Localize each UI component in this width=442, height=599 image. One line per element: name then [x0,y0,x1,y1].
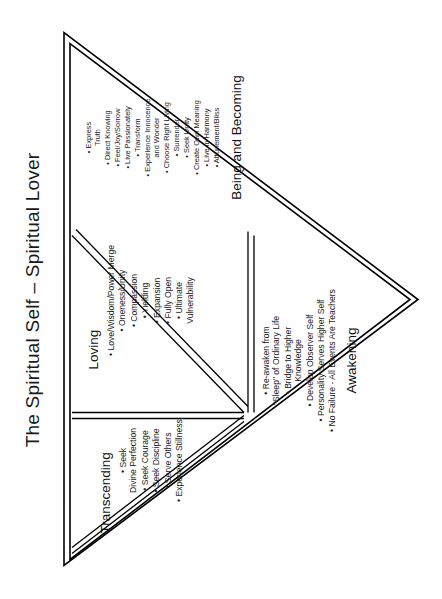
poster: The Spiritual Self – Spiritual Lover [0,0,442,599]
list-item: Transform [133,49,142,225]
list-item: Direct Knowing [103,49,112,225]
list-item: Express Truth [84,49,102,225]
zone-loving-label: Loving [86,225,101,375]
list-item: Seek Unity [182,49,191,225]
zone-awakening-label: Awakening [344,267,359,453]
zone-transcending-list: Seek Divine Perfection Seek Courage Seek… [118,385,184,535]
page-title: The Spiritual Self – Spiritual Lover [22,0,44,599]
list-item: Yielding [140,225,150,375]
list-item: Live Passionately [123,49,132,225]
list-item: Love/Wisdom/Power Merge [106,225,116,375]
list-item: Compassion [129,225,139,375]
list-item: Expansion [152,225,162,375]
zone-awakening: Re-awaken from "Sleep" of Ordinary Life … [261,267,359,453]
list-item: Serve Others [163,385,173,535]
list-item: Oneness/Unity [117,225,127,375]
list-item: Surrender [172,49,181,225]
list-item: Live in Harmony [202,49,211,225]
list-item: Seek Discipline [151,385,161,535]
poster-rotation-wrapper: The Spiritual Self – Spiritual Lover [0,0,442,599]
list-item: Feel/Joy/Sorrow [113,49,122,225]
zone-awakening-list: Re-awaken from "Sleep" of Ordinary Life … [261,267,338,453]
zone-being-and-becoming-list: Express Truth Direct Knowing Feel/Joy/So… [84,49,221,225]
list-item: Ultimate Vulnerability [174,225,195,375]
zone-being-and-becoming-label: Being and Becoming [229,49,244,225]
list-item: Re-awaken from "Sleep" of Ordinary Life [261,267,282,453]
triangle-diagram: Transcending Seek Divine Perfection Seek… [58,26,424,571]
zone-being-and-becoming: Express Truth Direct Knowing Feel/Joy/So… [84,49,244,225]
list-item: Bridge to Higher Knowledge [283,267,304,453]
list-item: Choose Right Living [162,49,171,225]
zone-loving: Loving Love/Wisdom/Power Merge Oneness/U… [86,225,196,375]
list-item: Seek Courage [140,385,150,535]
list-item: Attunement/Bliss [212,49,221,225]
zone-loving-list: Love/Wisdom/Power Merge Oneness/Unity Co… [106,225,195,375]
list-item: Develop Observer Self [305,267,315,453]
list-item: Fully Open [163,225,173,375]
zone-transcending: Transcending Seek Divine Perfection Seek… [98,385,185,535]
list-item: Create Own Meaning [192,49,201,225]
list-item: Seek Divine Perfection [118,385,139,535]
list-item: Experience Stillness [174,385,184,535]
list-item: No Failure - All Events Are Teachers [327,267,337,453]
list-item: Personality Serves Higher Self [316,267,326,453]
zone-transcending-label: Transcending [98,385,113,535]
list-item: Experience Innocence and Wonder [143,49,161,225]
